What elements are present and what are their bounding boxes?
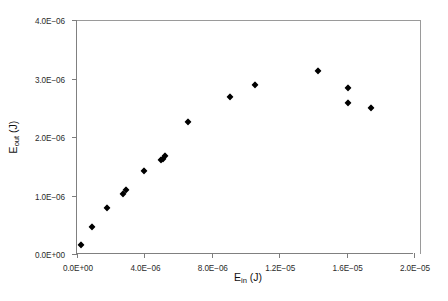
data-point — [344, 84, 351, 91]
plot-frame-right-rule — [420, 20, 421, 254]
y-axis-tick: 1.0E−06 — [72, 196, 77, 197]
x-axis-tick-label: 4.0E−06 — [130, 264, 160, 273]
y-axis-tick: 4.0E−06 — [72, 20, 77, 21]
x-axis-tick: 1.2E−05 — [279, 253, 280, 258]
data-point — [162, 152, 169, 159]
y-axis-tick-label: 1.0E−06 — [35, 192, 65, 201]
x-axis-tick-label: 0.0E+00 — [63, 264, 93, 273]
data-point — [103, 205, 110, 212]
x-axis-tick: 0.0E+00 — [77, 253, 78, 258]
y-axis-title-base: E — [7, 146, 19, 153]
y-axis-title: Eout (J) — [7, 121, 21, 154]
data-point — [185, 118, 192, 125]
y-axis-title-subscript: out — [12, 136, 21, 147]
y-axis-tick: 2.0E−06 — [72, 137, 77, 138]
y-axis-title-unit: (J) — [7, 121, 19, 136]
x-axis-tick: 4.0E−06 — [144, 253, 145, 258]
y-axis-tick: 3.0E−06 — [72, 79, 77, 80]
x-axis-title-unit: (J) — [247, 271, 262, 283]
x-axis-tick-label: 8.0E−06 — [198, 264, 228, 273]
scatter-chart-figure: 0.0E+001.0E−062.0E−063.0E−064.0E−06 0.0E… — [0, 0, 448, 301]
x-axis-title: Ein (J) — [234, 271, 262, 285]
x-axis-tick-label: 1.2E−05 — [265, 264, 295, 273]
data-point — [251, 81, 258, 88]
data-point — [88, 223, 95, 230]
data-point — [140, 167, 147, 174]
x-axis-tick: 8.0E−06 — [212, 253, 213, 258]
x-axis-tick-label: 1.6E−05 — [333, 264, 363, 273]
x-axis-title-base: E — [234, 271, 241, 283]
data-point — [77, 242, 84, 249]
y-axis-tick-label: 3.0E−06 — [35, 75, 65, 84]
y-axis-tick-label: 2.0E−06 — [35, 134, 65, 143]
data-point — [227, 94, 234, 101]
y-axis-tick-label: 4.0E−06 — [35, 17, 65, 26]
x-axis-tick: 1.6E−05 — [347, 253, 348, 258]
y-axis-tick-label: 0.0E+00 — [35, 251, 65, 260]
x-axis-tick: 2.0E−05 — [414, 253, 415, 258]
plot-area: 0.0E+001.0E−062.0E−063.0E−064.0E−06 0.0E… — [76, 20, 413, 254]
data-point — [344, 99, 351, 106]
x-axis-tick-label: 2.0E−05 — [400, 264, 430, 273]
data-point — [367, 105, 374, 112]
data-point — [314, 68, 321, 75]
